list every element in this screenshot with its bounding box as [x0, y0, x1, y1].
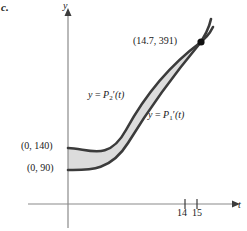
x-axis-label: t	[238, 200, 241, 210]
curve-p1-equals: =	[155, 109, 161, 120]
intersection-point-dot	[197, 38, 204, 45]
curve-p2-equals: =	[95, 89, 101, 100]
x-tick-label-14: 14	[177, 208, 187, 218]
curve-p1-lhs: y	[148, 109, 152, 120]
y-axis-label: y	[63, 1, 67, 11]
y-intercept-lower-label: (0, 90)	[27, 163, 54, 173]
figure-container: c. y t (14.7, 391) y = P2′(t) y = P1′(t)…	[0, 0, 247, 231]
graph-canvas	[0, 0, 247, 231]
part-label: c.	[1, 2, 9, 13]
x-tick-label-15: 15	[192, 208, 202, 218]
curve-p2-prime-label: y = P2′(t)	[88, 90, 124, 102]
curve-p1-prime-label: y = P1′(t)	[148, 110, 184, 122]
curve-p2-lhs: y	[88, 89, 92, 100]
curve-p1-arg: (t)	[175, 109, 184, 120]
intersection-point-label: (14.7, 391)	[133, 36, 177, 46]
curve-p2-arg: (t)	[115, 89, 124, 100]
y-intercept-upper-label: (0, 140)	[21, 141, 53, 151]
